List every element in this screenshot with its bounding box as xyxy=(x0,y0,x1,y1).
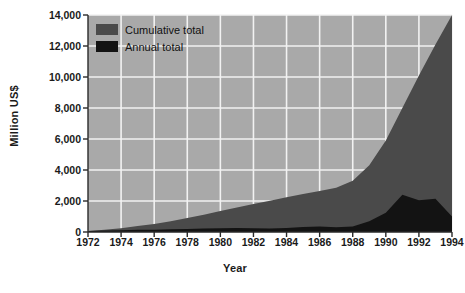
y-tick-label: 4,000 xyxy=(29,164,81,176)
legend-label-cumulative-total: Cumulative total xyxy=(125,24,204,36)
y-tick-label: 8,000 xyxy=(29,102,81,114)
legend-label-annual-total: Annual total xyxy=(125,41,183,53)
legend-swatch-cumulative-total xyxy=(96,24,118,35)
y-tick-label: 10,000 xyxy=(29,71,81,83)
x-axis-title: Year xyxy=(180,262,290,274)
chart-legend: Cumulative total Annual total xyxy=(96,22,204,56)
chart-figure: 02,0004,0006,0008,00010,00012,00014,000 … xyxy=(0,0,465,293)
y-tick-label: 6,000 xyxy=(29,133,81,145)
y-tick-label: 14,000 xyxy=(29,9,81,21)
legend-item-annual-total: Annual total xyxy=(96,39,204,54)
y-axis-title: Million US$ xyxy=(8,71,20,161)
legend-swatch-annual-total xyxy=(96,41,118,52)
y-tick-label: 2,000 xyxy=(29,195,81,207)
y-tick-label: 12,000 xyxy=(29,40,81,52)
x-tick-label: 1994 xyxy=(432,236,465,248)
legend-item-cumulative-total: Cumulative total xyxy=(96,22,204,37)
